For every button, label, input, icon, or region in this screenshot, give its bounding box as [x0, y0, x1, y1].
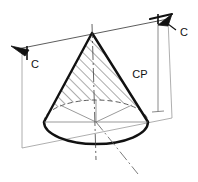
- technical-drawing-figure: C C CP: [0, 0, 198, 182]
- cone-slant-axis-dashdot: [96, 122, 138, 174]
- section-arrow-left: [11, 46, 29, 60]
- label-section-c-right: C: [180, 26, 188, 38]
- right-parallelogram-side: [168, 19, 172, 118]
- right-arrow-leader: [168, 24, 176, 30]
- label-cutting-plane-cp: CP: [132, 68, 147, 80]
- cone-section-diagram: C C CP: [0, 0, 198, 182]
- label-section-c-left: C: [31, 58, 39, 70]
- cp-dim-tick-bottom: [152, 111, 164, 112]
- cp-dimension: [152, 20, 164, 112]
